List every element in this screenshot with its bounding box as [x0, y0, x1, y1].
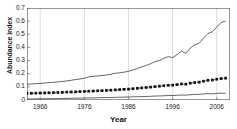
data-point-marker — [61, 91, 64, 94]
data-point-marker — [96, 89, 99, 92]
data-point-marker — [105, 89, 108, 92]
data-point-marker — [27, 92, 28, 95]
data-point-marker — [110, 89, 113, 92]
x-axis-label: Year — [0, 115, 237, 124]
y-axis-tick-labels: 00.10.20.30.40.50.60.7 — [0, 0, 25, 129]
data-point-marker — [132, 87, 135, 90]
data-point-marker — [92, 90, 95, 93]
data-point-marker — [123, 88, 126, 91]
series-line-abundance-index-mean — [27, 78, 226, 93]
y-tick-label: 0 — [3, 97, 25, 104]
data-point-marker — [189, 82, 192, 85]
data-point-marker — [162, 84, 165, 87]
data-point-marker — [114, 89, 117, 92]
plot-area — [27, 8, 230, 100]
y-tick-label: 0.1 — [3, 83, 25, 90]
data-point-marker — [171, 84, 174, 87]
data-point-marker — [52, 91, 55, 94]
data-point-marker — [220, 77, 223, 80]
data-point-marker — [149, 86, 152, 89]
data-point-marker — [198, 81, 201, 84]
data-point-marker — [145, 86, 148, 89]
x-tick-label: 1966 — [23, 104, 57, 111]
series-line-upper-confidence-line — [27, 21, 226, 84]
data-point-marker — [224, 77, 227, 80]
data-point-marker — [65, 91, 68, 94]
x-tick-label: 1996 — [156, 104, 190, 111]
plot-svg — [27, 8, 230, 100]
y-tick-label: 0.7 — [3, 5, 25, 12]
data-point-marker — [180, 83, 183, 86]
data-point-marker — [43, 92, 46, 95]
chart-figure: Abundance index 00.10.20.30.40.50.60.7 1… — [0, 0, 237, 129]
data-point-marker — [83, 90, 86, 93]
data-point-marker — [215, 78, 218, 81]
data-point-marker — [30, 92, 33, 95]
data-point-marker — [57, 91, 60, 94]
data-point-marker — [211, 79, 214, 82]
x-tick-label: 1986 — [112, 104, 146, 111]
data-point-marker — [167, 84, 170, 87]
data-point-marker — [118, 88, 121, 91]
data-point-marker — [74, 91, 77, 94]
data-point-marker — [127, 88, 130, 91]
data-point-marker — [185, 83, 188, 86]
data-point-marker — [34, 92, 37, 95]
data-point-marker — [48, 91, 51, 94]
data-point-marker — [79, 90, 82, 93]
data-point-marker — [154, 85, 157, 88]
x-tick-label: 1976 — [67, 104, 101, 111]
data-point-marker — [193, 81, 196, 84]
data-point-marker — [136, 87, 139, 90]
data-point-marker — [87, 90, 90, 93]
data-point-marker — [158, 85, 161, 88]
data-point-marker — [140, 87, 143, 90]
data-point-marker — [207, 79, 210, 82]
y-tick-label: 0.5 — [3, 31, 25, 38]
x-tick-label: 2006 — [200, 104, 234, 111]
data-point-marker — [202, 80, 205, 83]
y-tick-label: 0.2 — [3, 70, 25, 77]
data-point-marker — [176, 83, 179, 86]
data-point-marker — [70, 91, 73, 94]
y-tick-label: 0.3 — [3, 57, 25, 64]
y-tick-label: 0.6 — [3, 18, 25, 25]
series-line-lower-confidence-line — [27, 93, 226, 99]
data-point-marker — [39, 92, 42, 95]
y-tick-label: 0.4 — [3, 44, 25, 51]
data-point-marker — [101, 89, 104, 92]
